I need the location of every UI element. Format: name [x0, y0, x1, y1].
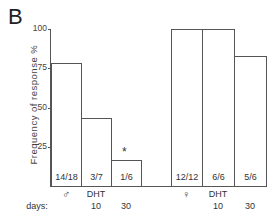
dht-label-right: DHT	[206, 189, 230, 199]
bar-label: 6/6	[202, 172, 235, 182]
y-tick-50: 50	[27, 102, 47, 112]
y-tick-100: 100	[27, 23, 47, 33]
bar-female-dht30	[234, 56, 267, 186]
x-axis	[50, 186, 267, 187]
bar-label: 5/6	[234, 172, 267, 182]
days-10-left: 10	[84, 201, 108, 211]
significance-asterisk: *	[122, 145, 127, 159]
bar-label: 1/6	[111, 172, 142, 182]
bar-label: 3/7	[81, 172, 112, 182]
y-tick-25: 25	[27, 141, 47, 151]
bar-female-control	[171, 29, 203, 186]
days-30-left: 30	[114, 201, 138, 211]
bar-male-control	[51, 63, 82, 186]
bar-label: 14/18	[51, 172, 82, 182]
dht-label-left: DHT	[84, 189, 108, 199]
days-30-right: 30	[238, 201, 262, 211]
female-symbol-icon: ♀	[178, 188, 194, 200]
days-label: days:	[22, 201, 52, 211]
panel-letter: B	[8, 4, 23, 30]
bar-female-dht10	[202, 29, 235, 186]
days-10-right: 10	[206, 201, 230, 211]
bar-label: 12/12	[171, 172, 203, 182]
y-tick-75: 75	[27, 62, 47, 72]
male-symbol-icon: ♂	[58, 188, 74, 200]
